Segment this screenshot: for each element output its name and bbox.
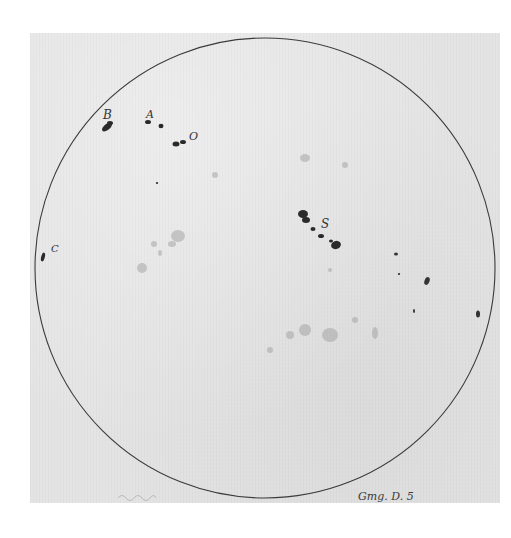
sunspot-group-o — [173, 140, 187, 147]
sunspot-group-a — [145, 120, 164, 128]
label-b: B — [102, 108, 112, 122]
sunspot-group-b — [100, 121, 113, 133]
sunspot-drawing: B A O S C Gmg. D. 5 — [0, 0, 511, 538]
solar-disc-outline — [35, 38, 495, 498]
sunspots-unlabeled — [156, 182, 480, 318]
signature: Gmg. D. 5 — [358, 490, 414, 503]
label-a: A — [145, 108, 154, 121]
label-s: S — [321, 217, 329, 231]
sunspot-group-c — [40, 252, 46, 262]
faint-faculae — [137, 154, 378, 353]
faint-scribble — [118, 496, 156, 501]
label-o: O — [189, 130, 198, 143]
label-c: C — [51, 243, 59, 254]
